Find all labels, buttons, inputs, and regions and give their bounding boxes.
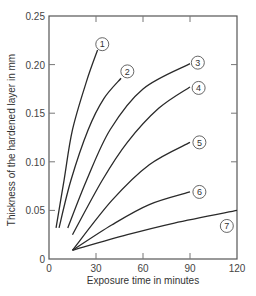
y-tick-label: 0.20 (26, 60, 46, 71)
y-tick-label: 0.15 (26, 108, 46, 119)
curve-label-4: 4 (192, 81, 205, 94)
curve-label-1: 1 (96, 38, 109, 51)
x-tick-label: 60 (137, 263, 149, 274)
y-tick-label: 0.25 (26, 11, 46, 22)
data-curves (56, 50, 237, 250)
curve-label-3: 3 (191, 56, 204, 69)
x-axis-label: Exposure time in minutes (87, 275, 199, 286)
curve-1 (56, 50, 98, 228)
plot-border (49, 16, 237, 259)
curve-labels: 1234567 (96, 38, 234, 233)
x-tick-label: 120 (229, 263, 246, 274)
svg-text:4: 4 (196, 83, 201, 93)
curve-label-7: 7 (220, 219, 233, 232)
x-tick-label: 0 (46, 263, 52, 274)
y-axis-label: Thickness of the hardened layer in mm (6, 54, 17, 226)
x-tick-label: 30 (90, 263, 102, 274)
curve-label-6: 6 (193, 185, 206, 198)
svg-text:3: 3 (195, 58, 200, 68)
svg-text:1: 1 (100, 39, 105, 49)
y-tick-label: 0.05 (26, 205, 46, 216)
y-tick-label: 0.10 (26, 157, 46, 168)
svg-text:2: 2 (125, 67, 130, 77)
axis-ticks: 030609012000.050.100.150.200.25 (26, 11, 246, 274)
curve-3 (68, 64, 190, 228)
y-tick-label: 0 (39, 254, 45, 265)
curve-label-5: 5 (193, 136, 206, 149)
x-tick-label: 90 (184, 263, 196, 274)
svg-text:7: 7 (224, 221, 229, 231)
curve-4 (73, 87, 191, 235)
plot-frame (49, 16, 237, 259)
svg-text:6: 6 (197, 187, 202, 197)
svg-text:5: 5 (197, 138, 202, 148)
hardened-layer-chart: 030609012000.050.100.150.200.25 1234567 … (0, 0, 256, 296)
curve-7 (73, 210, 238, 250)
curve-label-2: 2 (121, 65, 134, 78)
